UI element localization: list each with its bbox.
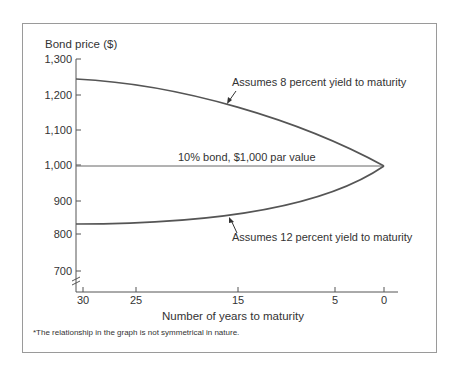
x-tick-label: 25 [130, 294, 142, 306]
y-tick-label: 1,000 [44, 159, 72, 171]
annotation-12-percent: Assumes 12 percent yield to maturity [232, 231, 413, 243]
y-tick-label: 1,300 [44, 53, 72, 65]
y-tick-labels: 1,300 1,200 1,100 1,000 900 800 700 [44, 53, 72, 277]
x-axis-label: Number of years to maturity [162, 310, 304, 322]
x-tick-label: 0 [381, 294, 387, 306]
annotation-par-value: 10% bond, $1,000 par value [178, 151, 316, 163]
x-tick-label: 15 [232, 294, 244, 306]
series-12-percent [76, 166, 384, 224]
y-tick-label: 700 [54, 265, 72, 277]
arrow-8-percent-icon [227, 91, 236, 104]
y-tick-label: 900 [54, 195, 72, 207]
y-tick-label: 1,200 [44, 89, 72, 101]
y-tick-label: 800 [54, 228, 72, 240]
x-tick-label: 5 [332, 294, 338, 306]
y-axis-label: Bond price ($) [45, 38, 117, 50]
x-tick-label: 30 [77, 294, 89, 306]
footnote: *The relationship in the graph is not sy… [33, 328, 239, 337]
y-ticks [76, 59, 81, 271]
x-ticks [83, 287, 384, 292]
bond-price-chart: Bond price ($) 1,300 1,200 1,100 1,000 9… [0, 0, 463, 374]
annotation-8-percent: Assumes 8 percent yield to maturity [232, 76, 407, 88]
y-tick-label: 1,100 [44, 124, 72, 136]
x-tick-labels: 30 25 15 5 0 [77, 294, 387, 306]
